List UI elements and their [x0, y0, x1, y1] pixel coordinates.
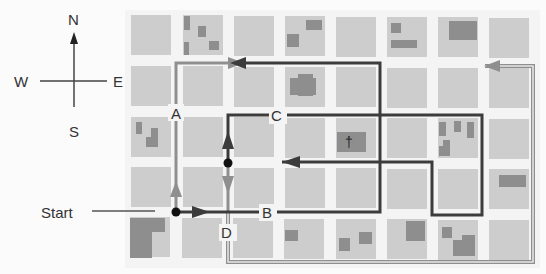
route-map: † A	[0, 0, 546, 274]
point-label-d: D	[221, 224, 232, 241]
start-label: Start	[41, 204, 74, 221]
compass-north: N	[68, 11, 79, 28]
start-point-marker	[172, 208, 181, 217]
compass-east: E	[113, 73, 123, 90]
compass-west: W	[14, 73, 29, 90]
church-icon: †	[345, 134, 353, 150]
compass-south: S	[69, 123, 79, 140]
point-label-a: A	[171, 105, 181, 122]
intersection-marker	[224, 159, 233, 168]
point-label-c: C	[271, 107, 282, 124]
point-label-b: B	[262, 204, 272, 221]
